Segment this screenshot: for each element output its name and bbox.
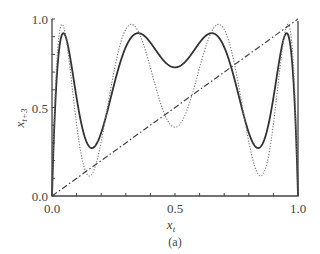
series-dashdot-line	[52, 19, 298, 196]
y-tick-label: 1.0	[32, 12, 48, 27]
series-solid-line	[52, 33, 298, 196]
series-dotted-line	[52, 24, 298, 196]
plot-curves	[52, 19, 298, 196]
y-tick-label: 0.5	[32, 101, 48, 116]
x-axis-label: xt	[166, 217, 176, 234]
x-tick-label: 0.5	[167, 201, 183, 216]
y-axis-label: xt+3	[12, 108, 29, 128]
chart: 0.00.51.00.00.51.0 xt+3 xt (a)	[0, 0, 320, 254]
x-tick-label: 1.0	[290, 201, 306, 216]
axis-ticks: 0.00.51.00.00.51.0	[32, 12, 306, 216]
y-tick-label: 0.0	[32, 189, 48, 204]
figure-caption: (a)	[168, 235, 181, 249]
